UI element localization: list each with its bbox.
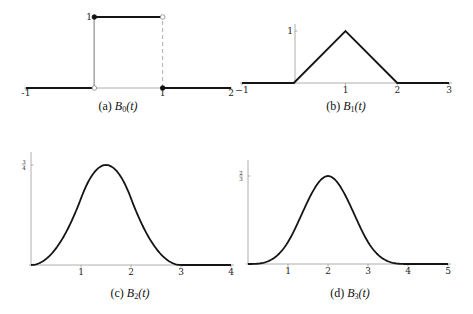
closed-endpoint <box>92 15 97 20</box>
x-tick-label: 1 <box>78 267 84 277</box>
x-tick-label: 3 <box>178 267 184 277</box>
panel-a: -1121(a) B0(t) <box>22 12 234 114</box>
x-tick-label: 2 <box>128 267 134 277</box>
series-curve <box>248 176 448 264</box>
y-tick-label-denominator: 3 <box>239 176 243 182</box>
caption-label: (d) <box>330 286 347 300</box>
x-tick-label: 2 <box>394 85 400 95</box>
x-tick-label: −1 <box>235 85 248 95</box>
x-tick-label: 4 <box>405 266 411 276</box>
caption-argument: (t) <box>138 286 149 300</box>
panel-b: −11231(b) B1(t) <box>235 24 452 114</box>
open-endpoint <box>92 86 97 91</box>
panel-caption: (c) B2(t) <box>111 286 150 301</box>
bspline-figure: -1121(a) B0(t)−11231(b) B1(t)123434(c) B… <box>0 0 473 314</box>
y-tick-label: 1 <box>287 26 293 36</box>
caption-label: (c) <box>111 286 127 300</box>
x-tick-label: 1 <box>285 266 291 276</box>
series-line <box>242 31 449 83</box>
closed-endpoint <box>160 86 165 91</box>
x-tick-label: 2 <box>228 88 234 98</box>
x-tick-label: 5 <box>445 266 451 276</box>
caption-argument: (t) <box>359 286 370 300</box>
x-tick-label: 3 <box>446 85 452 95</box>
panel-caption: (a) B0(t) <box>99 99 138 114</box>
y-tick-label-denominator: 4 <box>22 165 26 171</box>
x-tick-label: 4 <box>228 267 234 277</box>
y-tick-label-numerator: 3 <box>22 159 26 165</box>
x-tick-label: 3 <box>365 266 371 276</box>
x-tick-label: 2 <box>325 266 331 276</box>
series-curve <box>31 165 231 265</box>
open-endpoint <box>160 15 165 20</box>
x-tick-label: 1 <box>343 85 349 95</box>
caption-argument: (t) <box>126 99 137 113</box>
y-tick-label: 1 <box>86 12 92 22</box>
panel-caption: (b) B1(t) <box>326 99 366 114</box>
panel-c: 123434(c) B2(t) <box>22 152 234 301</box>
caption-argument: (t) <box>355 99 366 113</box>
panel-d: 1234523(d) B3(t) <box>239 160 451 301</box>
caption-label: (a) <box>99 99 115 113</box>
x-tick-label: -1 <box>22 88 31 98</box>
panel-caption: (d) B3(t) <box>330 286 370 301</box>
caption-label: (b) <box>326 99 343 113</box>
y-tick-label-numerator: 2 <box>239 170 243 176</box>
